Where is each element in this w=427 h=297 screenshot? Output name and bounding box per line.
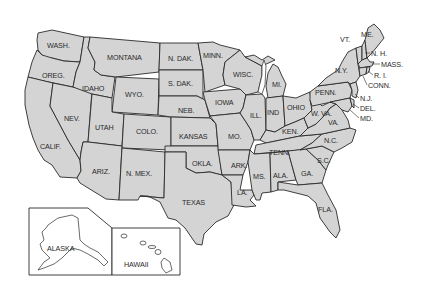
- label-mi: MI.: [272, 81, 282, 88]
- label-sd: S. DAK.: [168, 80, 193, 87]
- leader-md: [350, 110, 359, 118]
- label-me: ME.: [361, 31, 373, 38]
- hawaii-molokai: [148, 246, 156, 249]
- label-ca: CALIF.: [40, 143, 61, 150]
- label-ky: KEN.: [282, 128, 298, 135]
- hawaii-maui: [155, 250, 161, 255]
- label-nh: N. H.: [371, 50, 387, 57]
- label-in: IND: [267, 109, 279, 116]
- label-ne: NEB.: [178, 107, 194, 114]
- leader-ri: [368, 71, 373, 75]
- label-az: ARIZ.: [92, 168, 110, 175]
- label-ct: CONN.: [368, 82, 391, 89]
- label-de: DEL.: [360, 105, 376, 112]
- label-va: VA.: [328, 119, 339, 126]
- label-ia: IOWA: [215, 99, 234, 106]
- leader-ct: [363, 76, 367, 85]
- label-ak: ALASKA: [47, 245, 74, 252]
- label-nc: N.C.: [324, 137, 338, 144]
- label-wy: WYO.: [125, 91, 144, 98]
- label-mt: MONTANA: [107, 54, 142, 61]
- label-la: LA.: [237, 189, 248, 196]
- label-hi: HAWAII: [124, 261, 148, 268]
- label-wv: W. VA.: [311, 110, 332, 117]
- state-ri[interactable]: [366, 67, 370, 74]
- label-il: ILL.: [250, 112, 262, 119]
- hawaii-kauai: [121, 234, 127, 238]
- label-id: IDAHO: [82, 85, 104, 92]
- label-ga: GA.: [301, 170, 313, 177]
- label-mo: MO.: [228, 133, 241, 140]
- label-ri: R. I.: [374, 72, 387, 79]
- label-oh: OHIO: [287, 104, 305, 111]
- label-nv: NEV.: [64, 115, 80, 122]
- label-vt: VT.: [340, 36, 350, 43]
- label-mn: MINN.: [203, 52, 223, 59]
- label-al: ALA.: [273, 172, 288, 179]
- state-ct[interactable]: [359, 67, 367, 76]
- label-wi: WISC.: [233, 71, 253, 78]
- label-fl: FLA.: [318, 206, 333, 213]
- label-ms: MS.: [253, 173, 265, 180]
- label-ok: OKLA.: [192, 160, 213, 167]
- label-pa: PENN.: [315, 89, 336, 96]
- label-ks: KANSAS: [179, 133, 208, 140]
- label-ny: N.Y.: [335, 67, 348, 74]
- label-co: COLO.: [136, 128, 158, 135]
- label-or: OREG.: [42, 72, 65, 79]
- label-nd: N. DAK.: [168, 55, 193, 62]
- label-ma: MASS.: [381, 61, 403, 68]
- label-nm: N. MEX.: [126, 170, 152, 177]
- label-nj: N.J.: [360, 95, 372, 102]
- label-wa: WASH.: [47, 42, 70, 49]
- label-md: MD.: [360, 115, 373, 122]
- label-ut: UTAH: [95, 124, 114, 131]
- label-sc: S.C.: [317, 157, 331, 164]
- label-tn: TENN.: [269, 149, 290, 156]
- label-tx: TEXAS: [182, 199, 205, 206]
- hawaii-oahu: [140, 241, 146, 245]
- label-ar: ARK.: [231, 162, 247, 169]
